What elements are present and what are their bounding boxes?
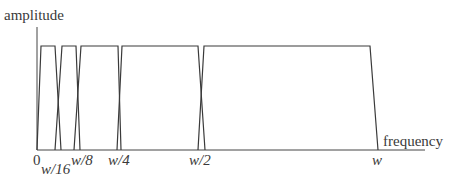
y-axis-label: amplitude [4,8,64,23]
tick-label-0: 0 [33,153,41,168]
tick-label-w16: w/16 [41,162,70,177]
tick-label-w: w [372,153,382,168]
band-2 [55,46,80,150]
filter-bank-diagram [0,0,456,183]
x-axis-label: frequency [383,134,443,149]
band-4 [117,46,205,150]
tick-label-w4: w/4 [108,153,130,168]
band-1 [37,46,61,150]
band-5 [198,46,378,150]
tick-label-w2: w/2 [189,153,211,168]
band-3 [74,46,121,150]
frequency-bands [37,46,378,150]
tick-label-w8: w/8 [71,153,93,168]
